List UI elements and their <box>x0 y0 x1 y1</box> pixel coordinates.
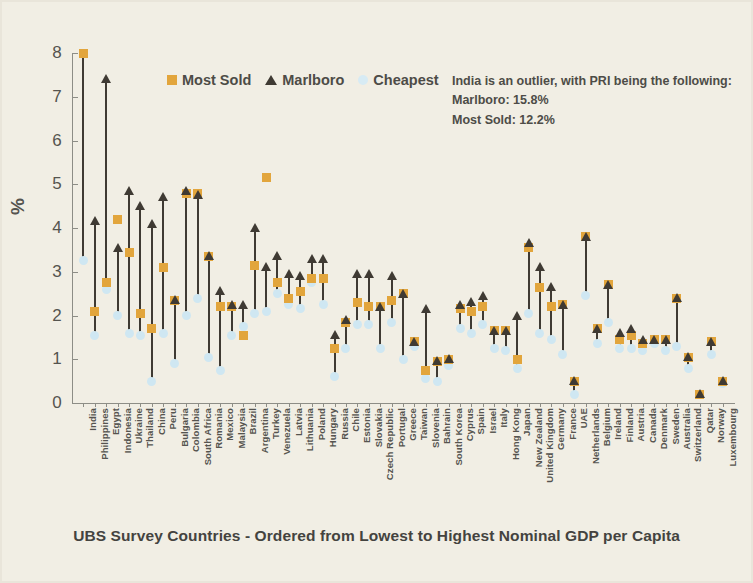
x-axis-tick-mark <box>220 403 221 407</box>
x-axis-tick-label: Japan <box>521 408 532 436</box>
price-range-stem <box>128 191 130 333</box>
price-range-stem <box>528 243 530 313</box>
marlboro-marker <box>409 337 419 346</box>
marlboro-marker <box>295 271 305 280</box>
most-sold-marker <box>535 283 544 292</box>
cheapest-marker <box>399 355 408 364</box>
x-axis-tick-mark <box>243 403 244 407</box>
price-range-stem <box>117 248 119 316</box>
cheapest-marker <box>672 342 681 351</box>
x-axis-tick-label: Russia <box>339 408 350 440</box>
x-axis-tick-mark <box>403 403 404 407</box>
cheapest-marker <box>296 304 305 313</box>
x-axis-tick-label: UAE <box>578 408 589 428</box>
y-axis-tick-label: 8 <box>40 43 62 63</box>
x-axis-tick-label: Venezuela <box>281 408 292 455</box>
x-axis-tick-label: Greece <box>407 408 418 441</box>
x-axis-tick-mark <box>654 403 655 407</box>
x-axis-tick-label: Italy <box>498 408 509 428</box>
marlboro-marker <box>364 269 374 278</box>
y-axis-tick-label: 2 <box>40 306 62 326</box>
x-axis-tick-label: Australia <box>681 408 692 450</box>
x-axis-title: UBS Survey Countries - Ordered from Lowe… <box>0 527 753 545</box>
most-sold-marker <box>102 278 111 287</box>
triangle-marker-icon <box>265 75 277 85</box>
x-axis-tick-label: Spain <box>475 408 486 434</box>
x-axis-tick-label: Bulgaria <box>179 408 190 447</box>
x-axis-tick-mark <box>597 403 598 407</box>
x-axis-tick-mark <box>323 403 324 407</box>
x-axis-tick-label: Colombia <box>190 408 201 452</box>
marlboro-marker <box>683 352 693 361</box>
x-axis-tick-mark <box>346 403 347 407</box>
y-axis-tick-mark <box>72 272 78 273</box>
x-axis-tick-label: Slovakia <box>373 408 384 447</box>
marlboro-marker <box>387 271 397 280</box>
x-axis-tick-label: Germany <box>555 408 566 450</box>
cheapest-marker <box>627 344 636 353</box>
marlboro-marker <box>227 300 237 309</box>
x-axis-tick-mark <box>414 403 415 407</box>
most-sold-marker <box>364 302 373 311</box>
most-sold-marker <box>79 49 88 58</box>
marlboro-marker <box>432 356 442 365</box>
price-range-stem <box>368 274 370 324</box>
x-axis-tick-label: Latvia <box>293 408 304 436</box>
x-axis-tick-mark <box>494 403 495 407</box>
x-axis-tick-label: Peru <box>167 408 178 430</box>
marlboro-marker <box>135 201 145 210</box>
marlboro-marker <box>569 376 579 385</box>
x-axis-tick-mark <box>631 403 632 407</box>
x-axis-tick-mark <box>300 403 301 407</box>
most-sold-marker <box>90 307 99 316</box>
x-axis-tick-label: Norway <box>715 408 726 443</box>
circle-marker-icon <box>358 75 368 85</box>
marlboro-marker <box>90 216 100 225</box>
x-axis-tick-mark <box>95 403 96 407</box>
cheapest-marker <box>684 364 693 373</box>
marlboro-marker <box>444 354 454 363</box>
cheapest-marker <box>558 350 567 359</box>
x-axis-tick-mark <box>711 403 712 407</box>
most-sold-marker <box>387 296 396 305</box>
marlboro-marker <box>535 262 545 271</box>
marlboro-marker <box>158 192 168 201</box>
x-axis-tick-label: Egypt <box>110 408 121 435</box>
most-sold-marker <box>296 287 305 296</box>
x-axis-tick-label: Mexico <box>224 408 235 441</box>
cheapest-marker <box>478 320 487 329</box>
most-sold-marker <box>125 248 134 257</box>
x-axis-tick-mark <box>198 403 199 407</box>
cheapest-marker <box>604 318 613 327</box>
x-axis-tick-mark <box>83 403 84 407</box>
marlboro-marker <box>603 280 613 289</box>
marlboro-marker <box>581 232 591 241</box>
cheapest-marker <box>273 289 282 298</box>
x-axis-tick-mark <box>152 403 153 407</box>
x-axis-tick-label: China <box>156 408 167 435</box>
cheapest-marker <box>707 350 716 359</box>
marlboro-marker <box>341 315 351 324</box>
x-axis-tick-mark <box>255 403 256 407</box>
x-axis-tick-label: Czech Republic <box>384 408 395 480</box>
price-range-stem <box>550 287 552 340</box>
x-axis-tick-label: Brazil <box>247 408 258 434</box>
marlboro-marker <box>649 335 659 344</box>
x-axis-tick-mark <box>357 403 358 407</box>
x-axis-tick-mark <box>471 403 472 407</box>
most-sold-marker <box>467 307 476 316</box>
marlboro-marker <box>466 297 476 306</box>
marlboro-marker <box>615 328 625 337</box>
x-axis-tick-label: Indonesia <box>122 408 133 453</box>
x-axis-tick-mark <box>677 403 678 407</box>
x-axis-tick-mark <box>643 403 644 407</box>
cheapest-marker <box>216 366 225 375</box>
marlboro-marker <box>524 238 534 247</box>
x-axis-tick-mark <box>506 403 507 407</box>
price-range-stem <box>82 53 84 261</box>
marlboro-marker <box>638 335 648 344</box>
x-axis-tick-mark <box>437 403 438 407</box>
x-axis-tick-mark <box>118 403 119 407</box>
x-axis-tick-mark <box>460 403 461 407</box>
annotation-line-3: Most Sold: 12.2% <box>452 111 732 130</box>
